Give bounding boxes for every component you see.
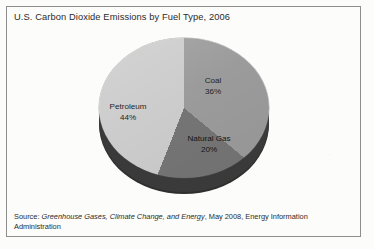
slice-label-coal-percent: 36%	[185, 87, 241, 98]
page-background: U.S. Carbon Dioxide Emissions by Fuel Ty…	[0, 0, 374, 249]
slice-label-natural-gas: Natural Gas 20%	[171, 134, 247, 155]
slice-label-petroleum-name: Petroleum	[110, 102, 147, 111]
slice-label-natural-gas-percent: 20%	[171, 145, 247, 156]
slice-label-coal: Coal 36%	[185, 76, 241, 97]
slice-label-petroleum-percent: 44%	[91, 113, 165, 124]
figure-title: U.S. Carbon Dioxide Emissions by Fuel Ty…	[14, 12, 230, 22]
source-note: Source: Greenhouse Gases, Climate Change…	[14, 212, 344, 231]
slice-label-coal-name: Coal	[205, 76, 222, 85]
pie-chart: Coal 36% Petroleum 44% Natural Gas 20%	[7, 30, 360, 205]
source-prefix: Source:	[14, 212, 42, 221]
slice-label-petroleum: Petroleum 44%	[91, 102, 165, 123]
pie-graphic: Coal 36% Petroleum 44% Natural Gas 20%	[99, 38, 269, 198]
source-publication: Greenhouse Gases, Climate Change, and En…	[42, 212, 205, 221]
slice-label-natural-gas-name: Natural Gas	[187, 134, 230, 143]
